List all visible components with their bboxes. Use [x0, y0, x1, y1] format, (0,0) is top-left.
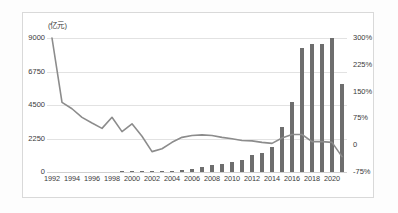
x-axis-tick-label: 2018: [304, 175, 320, 182]
x-axis-tick-label: 2006: [184, 175, 200, 182]
y-axis-title: (亿元): [48, 22, 67, 30]
x-axis-tick-label: 2020: [324, 175, 340, 182]
x-axis-ticks: 1992199419961998200020022004200620082010…: [47, 175, 347, 189]
right-axis-tick-label: 0: [353, 141, 397, 149]
x-axis-tick-label: 1994: [64, 175, 80, 182]
x-axis-tick-label: 2004: [164, 175, 180, 182]
left-axis-tick-label: 0: [0, 168, 45, 176]
gridline: [47, 172, 347, 173]
x-axis-tick-label: 2002: [144, 175, 160, 182]
x-axis-tick-label: 2012: [244, 175, 260, 182]
x-axis-tick-label: 2010: [224, 175, 240, 182]
right-axis-tick-label: 75%: [353, 114, 397, 122]
growth-rate-line: [52, 38, 342, 157]
x-axis-tick-label: 2014: [264, 175, 280, 182]
right-axis-tick-label: 150%: [353, 88, 397, 96]
left-axis-tick-label: 9000: [0, 34, 45, 42]
left-axis-tick-label: 6750: [0, 68, 45, 76]
right-axis-tick-label: 225%: [353, 61, 397, 69]
right-axis-tick-label: 300%: [353, 34, 397, 42]
x-axis-tick-label: 1992: [44, 175, 60, 182]
plot-area: [47, 38, 347, 172]
right-axis-tick-label: -75%: [353, 168, 397, 176]
left-axis-tick-label: 2250: [0, 135, 45, 143]
x-axis-tick-label: 2000: [124, 175, 140, 182]
x-axis-tick-label: 2008: [204, 175, 220, 182]
x-axis-tick-label: 2016: [284, 175, 300, 182]
chart-figure: (亿元) 90006750450022500 300%225%150%75%0-…: [0, 0, 398, 213]
left-axis-tick-label: 4500: [0, 101, 45, 109]
x-axis-tick-label: 1998: [104, 175, 120, 182]
x-axis-tick-label: 1996: [84, 175, 100, 182]
line-series: [47, 38, 347, 172]
